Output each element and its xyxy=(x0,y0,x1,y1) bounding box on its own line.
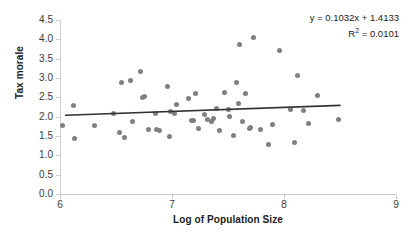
data-point xyxy=(336,117,341,122)
data-point xyxy=(240,119,245,124)
data-point xyxy=(237,42,242,47)
data-point xyxy=(60,123,65,128)
data-point xyxy=(222,90,227,95)
data-point xyxy=(72,136,77,141)
data-point xyxy=(142,94,147,99)
y-tick-label: 4.0 xyxy=(23,34,53,44)
data-point xyxy=(288,107,293,112)
x-tick-label: 8 xyxy=(274,199,294,210)
data-point xyxy=(266,142,271,147)
data-point xyxy=(174,102,179,107)
r-squared-value: = 0.0101 xyxy=(359,28,399,39)
data-point xyxy=(214,106,219,111)
x-tick-label: 6 xyxy=(50,199,70,210)
y-tick-label: 0.0 xyxy=(23,189,53,199)
data-point xyxy=(295,73,300,78)
data-point xyxy=(234,80,239,85)
data-point xyxy=(92,123,97,128)
data-point xyxy=(138,69,143,74)
data-point xyxy=(153,111,158,116)
r-squared-text: R2 = 0.0101 xyxy=(310,24,399,40)
y-tick-label: 3.5 xyxy=(23,54,53,64)
data-point xyxy=(315,93,320,98)
data-point xyxy=(130,119,135,124)
regression-annotation: y = 0.1032x + 1.4133 R2 = 0.0101 xyxy=(310,11,399,40)
scatter-chart: Tax morale 0.00.51.01.52.02.53.03.54.04.… xyxy=(0,0,413,238)
data-point xyxy=(217,128,222,133)
data-point xyxy=(231,133,236,138)
x-axis-title: Log of Population Size xyxy=(60,214,396,225)
data-point xyxy=(211,116,216,121)
data-point xyxy=(292,140,297,145)
x-axis-line xyxy=(60,194,396,195)
data-point xyxy=(306,121,311,126)
data-point xyxy=(122,135,127,140)
data-point xyxy=(243,91,248,96)
y-tick-label: 2.5 xyxy=(23,92,53,102)
data-point xyxy=(191,118,196,123)
data-point xyxy=(258,127,263,132)
data-point xyxy=(111,111,116,116)
data-point xyxy=(71,103,76,108)
data-point xyxy=(226,107,231,112)
plot-area xyxy=(60,20,396,194)
data-point xyxy=(193,91,198,96)
y-tick-label: 1.0 xyxy=(23,150,53,160)
data-point xyxy=(248,125,253,130)
data-point xyxy=(117,130,122,135)
data-point xyxy=(128,78,133,83)
y-tick-label: 4.5 xyxy=(23,15,53,25)
data-point xyxy=(196,126,201,131)
y-tick-label: 0.5 xyxy=(23,170,53,180)
data-point xyxy=(186,96,191,101)
x-tick-label: 7 xyxy=(162,199,182,210)
data-point xyxy=(119,80,124,85)
data-point xyxy=(146,127,151,132)
y-tick-label: 1.5 xyxy=(23,131,53,141)
data-point xyxy=(251,35,256,40)
data-point xyxy=(277,48,282,53)
regression-equation: y = 0.1032x + 1.4133 xyxy=(310,11,399,24)
y-tick-label: 3.0 xyxy=(23,73,53,83)
data-point xyxy=(301,108,306,113)
data-point xyxy=(236,101,241,106)
data-point xyxy=(227,114,232,119)
x-tick-label: 9 xyxy=(386,199,406,210)
data-point xyxy=(172,111,177,116)
data-point xyxy=(270,122,275,127)
data-point xyxy=(157,128,162,133)
data-point xyxy=(165,84,170,89)
data-point xyxy=(167,134,172,139)
y-tick-label: 2.0 xyxy=(23,112,53,122)
